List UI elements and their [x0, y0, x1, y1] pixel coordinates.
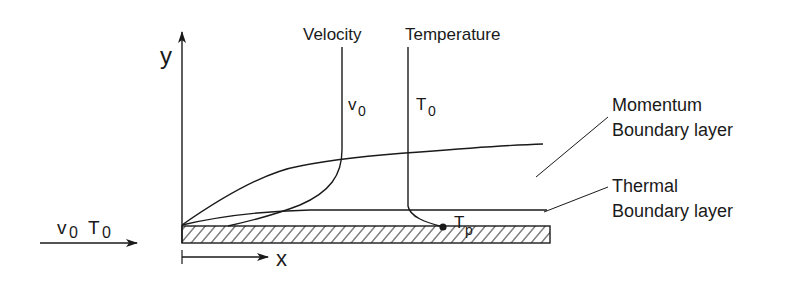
svg-text:Boundary layer: Boundary layer [612, 120, 733, 140]
x-axis-label: x [276, 246, 287, 271]
svg-text:v: v [57, 217, 67, 238]
momentum-boundary-layer-annotation: Momentum Boundary layer [612, 95, 733, 140]
flat-plate [182, 226, 550, 243]
boundary-layer-diagram: y x Velocity Temperature v 0 T 0 T p v 0 [0, 0, 795, 283]
temperature-label: Temperature [405, 25, 500, 44]
momentum-boundary-layer-curve [182, 144, 543, 225]
temperature-profile-curve [408, 47, 443, 227]
velocity-label: Velocity [303, 25, 362, 44]
svg-text:T: T [88, 217, 100, 238]
svg-text:p: p [465, 222, 473, 238]
svg-text:0: 0 [102, 224, 111, 241]
wall-temperature-point [439, 223, 446, 230]
velocity-profile-curve [228, 47, 342, 226]
t0-label: T 0 [416, 95, 436, 119]
momentum-leader-line [536, 117, 608, 177]
thermal-leader-line [544, 187, 608, 212]
svg-text:Thermal: Thermal [612, 176, 678, 196]
svg-text:0: 0 [428, 103, 436, 119]
svg-text:T: T [416, 95, 426, 114]
thermal-boundary-layer-curve [182, 210, 547, 225]
svg-text:Boundary layer: Boundary layer [612, 201, 733, 221]
freestream-label: v 0 T 0 [57, 217, 111, 241]
svg-text:v: v [348, 95, 357, 114]
svg-text:Momentum: Momentum [612, 95, 702, 115]
svg-text:0: 0 [69, 224, 78, 241]
x-direction-arrow [182, 250, 268, 264]
svg-text:0: 0 [358, 103, 366, 119]
thermal-boundary-layer-annotation: Thermal Boundary layer [612, 176, 733, 221]
y-axis-label: y [160, 42, 172, 69]
svg-text:T: T [454, 213, 464, 232]
v0-label: v 0 [348, 95, 366, 119]
